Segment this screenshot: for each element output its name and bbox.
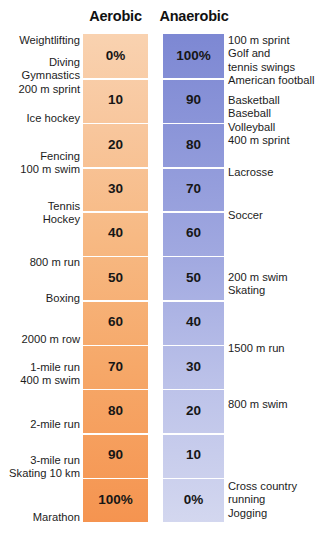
left-sport-label: Diving Gymnastics 200 m sprint xyxy=(0,56,80,96)
left-sport-label: 800 m run xyxy=(0,256,80,269)
aerobic-value-label: 100% xyxy=(83,478,148,522)
right-sport-label: Lacrosse xyxy=(228,166,320,179)
column-header-aerobic: Aerobic xyxy=(83,8,148,24)
right-sport-label: 1500 m run xyxy=(228,342,320,355)
right-sport-label: 800 m swim xyxy=(228,398,320,411)
right-sport-label: 100 m sprint Golf and tennis swings Amer… xyxy=(228,34,320,88)
aerobic-value-label: 30 xyxy=(83,167,148,211)
left-sport-label: Boxing xyxy=(0,292,80,305)
aerobic-value-label: 60 xyxy=(83,300,148,344)
anaerobic-value-label: 60 xyxy=(163,211,224,255)
aerobic-value-label: 90 xyxy=(83,433,148,477)
anaerobic-value-label: 80 xyxy=(163,123,224,167)
right-sport-label: Cross country running Jogging xyxy=(228,480,320,520)
left-sport-label: 2000 m row xyxy=(0,333,80,346)
aerobic-value-label: 80 xyxy=(83,389,148,433)
aerobic-value-label: 40 xyxy=(83,211,148,255)
left-sport-label: Ice hockey xyxy=(0,112,80,125)
aerobic-value-label: 20 xyxy=(83,123,148,167)
left-sport-label: 1-mile run 400 m swim xyxy=(0,361,80,388)
aerobic-value-label: 50 xyxy=(83,256,148,300)
anaerobic-value-label: 30 xyxy=(163,345,224,389)
column-header-anaerobic: Anaerobic xyxy=(158,8,230,24)
anaerobic-value-label: 0% xyxy=(163,478,224,522)
anaerobic-value-label: 20 xyxy=(163,389,224,433)
energy-system-chart: Aerobic Anaerobic 0%100%1090208030704060… xyxy=(0,0,320,534)
aerobic-value-label: 70 xyxy=(83,345,148,389)
left-sport-label: Marathon xyxy=(0,511,80,524)
anaerobic-value-label: 40 xyxy=(163,300,224,344)
anaerobic-value-label: 100% xyxy=(163,34,224,78)
left-sport-label: Fencing 100 m swim xyxy=(0,150,80,177)
right-sport-label: Basketball Baseball Volleyball 400 m spr… xyxy=(228,94,320,148)
right-sport-label: 200 m swim Skating xyxy=(228,271,320,298)
anaerobic-value-label: 70 xyxy=(163,167,224,211)
left-sport-label: Tennis Hockey xyxy=(0,200,80,227)
left-sport-label: 3-mile run Skating 10 km xyxy=(0,454,80,481)
anaerobic-value-label: 50 xyxy=(163,256,224,300)
anaerobic-value-label: 10 xyxy=(163,433,224,477)
anaerobic-value-label: 90 xyxy=(163,78,224,122)
aerobic-value-label: 10 xyxy=(83,78,148,122)
left-sport-label: 2-mile run xyxy=(0,418,80,431)
aerobic-value-label: 0% xyxy=(83,34,148,78)
right-sport-label: Soccer xyxy=(228,209,320,222)
left-sport-label: Weightlifting xyxy=(0,34,80,47)
